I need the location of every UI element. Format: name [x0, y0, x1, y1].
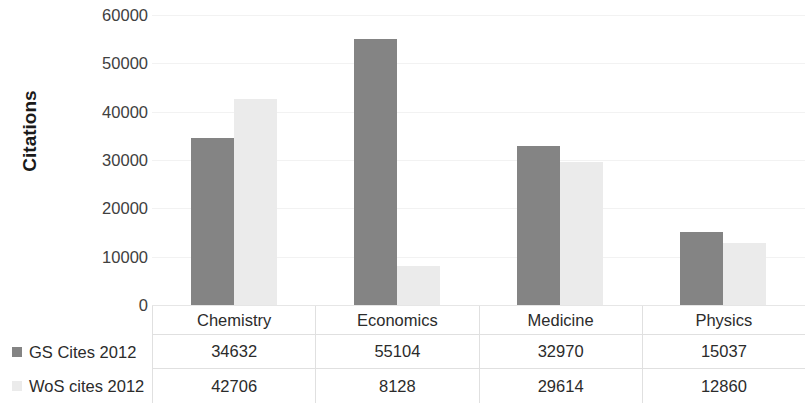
bar[interactable]	[560, 162, 603, 305]
bar[interactable]	[517, 146, 560, 305]
data-table: GS Cites 2012WoS cites 2012 Chemistry346…	[0, 306, 805, 403]
legend-swatch-icon	[12, 381, 22, 391]
table-column-header: Medicine	[480, 306, 642, 335]
bar[interactable]	[234, 99, 277, 305]
bar[interactable]	[191, 138, 234, 305]
legend-item-label: GS Cites 2012	[29, 343, 136, 362]
table-cell: 32970	[480, 335, 642, 369]
table-cell: 42706	[153, 369, 315, 403]
legend-item[interactable]: WoS cites 2012	[0, 369, 152, 403]
table-cell: 55104	[316, 335, 478, 369]
y-axis-tick-labels: 0100002000030000400005000060000	[52, 0, 148, 320]
legend: GS Cites 2012WoS cites 2012	[0, 306, 152, 403]
table-column-header: Economics	[316, 306, 478, 335]
legend-item[interactable]: GS Cites 2012	[0, 335, 152, 369]
table-column: Physics1503712860	[643, 306, 805, 403]
plot-area	[152, 15, 805, 305]
y-axis-tick-label: 60000	[52, 7, 148, 24]
table-cell: 8128	[316, 369, 478, 403]
bar[interactable]	[680, 232, 723, 305]
table-column: Economics551048128	[316, 306, 479, 403]
table-column: Chemistry3463242706	[153, 306, 316, 403]
bar-group	[642, 15, 805, 305]
y-axis-tick-label: 30000	[52, 152, 148, 169]
bar[interactable]	[354, 39, 397, 305]
table-column-header: Chemistry	[153, 306, 315, 335]
table-cell: 12860	[643, 369, 805, 403]
bar-group	[315, 15, 478, 305]
table-column-header: Physics	[643, 306, 805, 335]
bar[interactable]	[397, 266, 440, 305]
bar[interactable]	[723, 243, 766, 305]
y-axis-tick-label: 50000	[52, 55, 148, 72]
bar-group	[152, 15, 315, 305]
legend-swatch-icon	[12, 347, 22, 357]
bar-pair	[354, 15, 440, 305]
bar-pair	[680, 15, 766, 305]
table-grid: Chemistry3463242706Economics551048128Med…	[152, 306, 805, 403]
y-axis-tick-label: 10000	[52, 248, 148, 265]
bar-groups	[152, 15, 805, 305]
bar-group	[479, 15, 642, 305]
legend-item-label: WoS cites 2012	[29, 377, 144, 396]
legend-spacer	[0, 306, 152, 335]
y-axis-tick-label: 40000	[52, 103, 148, 120]
bar-pair	[517, 15, 603, 305]
table-cell: 29614	[480, 369, 642, 403]
table-cell: 15037	[643, 335, 805, 369]
bar-chart-with-data-table: Citations 010000200003000040000500006000…	[0, 0, 805, 403]
y-axis-tick-label: 20000	[52, 200, 148, 217]
bar-pair	[191, 15, 277, 305]
table-cell: 34632	[153, 335, 315, 369]
y-axis-title: Citations	[19, 41, 41, 221]
table-column: Medicine3297029614	[480, 306, 643, 403]
